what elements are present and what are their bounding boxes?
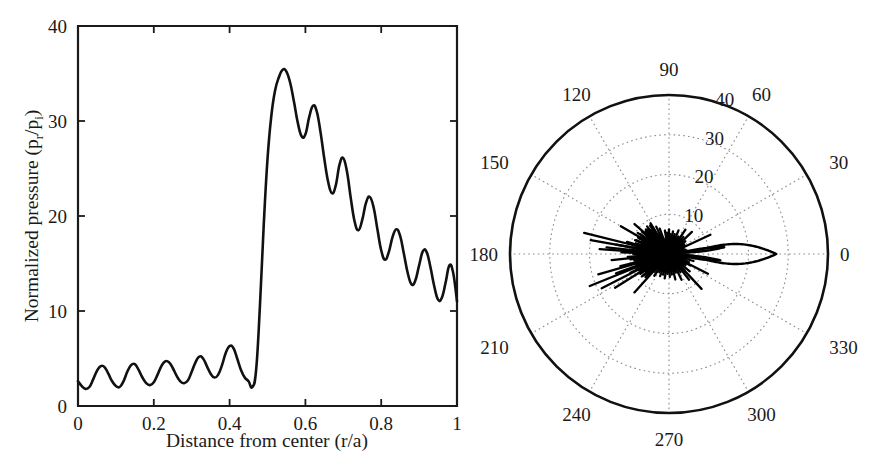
x-tick-label: 0.8 <box>369 413 393 434</box>
polar-angle-label: 150 <box>480 152 509 173</box>
polar-angle-label: 90 <box>660 59 679 80</box>
right-polar-plot: 0306090120150180210240270300330 10203040 <box>470 59 858 450</box>
y-tick-label: 20 <box>48 206 67 227</box>
polar-angle-label: 330 <box>829 337 858 358</box>
polar-radius-labels: 10203040 <box>684 89 734 225</box>
polar-angle-label: 120 <box>562 84 591 105</box>
y-tick-label: 10 <box>48 301 67 322</box>
x-axis-ticks <box>78 26 457 406</box>
polar-angle-label: 30 <box>829 152 848 173</box>
y-axis-label-group: Normalized pressure (pr/pi) <box>21 110 46 323</box>
polar-angle-label: 270 <box>655 429 684 450</box>
polar-angle-label: 0 <box>840 244 850 265</box>
x-tick-label: 1 <box>452 413 462 434</box>
pressure-curve <box>78 69 457 389</box>
polar-radius-label: 40 <box>715 89 734 110</box>
polar-radius-label: 10 <box>684 205 703 226</box>
polar-angle-label: 210 <box>480 337 509 358</box>
polar-angle-label: 60 <box>752 84 771 105</box>
y-axis-ticks <box>78 26 457 406</box>
left-line-plot: 010203040 00.20.40.60.81 Distance from c… <box>21 16 462 452</box>
y-tick-label: 40 <box>48 16 67 37</box>
plot-frame <box>78 26 457 406</box>
polar-angle-label: 300 <box>747 404 776 425</box>
figure-container: 010203040 00.20.40.60.81 Distance from c… <box>0 0 887 465</box>
polar-radius-label: 20 <box>695 166 714 187</box>
y-tick-label: 0 <box>58 396 68 417</box>
y-axis-tick-labels: 010203040 <box>48 16 67 417</box>
polar-angle-label: 180 <box>470 244 499 265</box>
x-axis-label: Distance from center (r/a) <box>166 430 368 452</box>
y-tick-label: 30 <box>48 111 67 132</box>
x-tick-label: 0 <box>73 413 83 434</box>
polar-angle-label: 240 <box>562 404 591 425</box>
x-tick-label: 0.2 <box>142 413 166 434</box>
polar-radius-label: 30 <box>705 128 724 149</box>
figure-svg: 010203040 00.20.40.60.81 Distance from c… <box>0 0 887 465</box>
y-axis-label: Normalized pressure (pr/pi) <box>21 110 46 323</box>
